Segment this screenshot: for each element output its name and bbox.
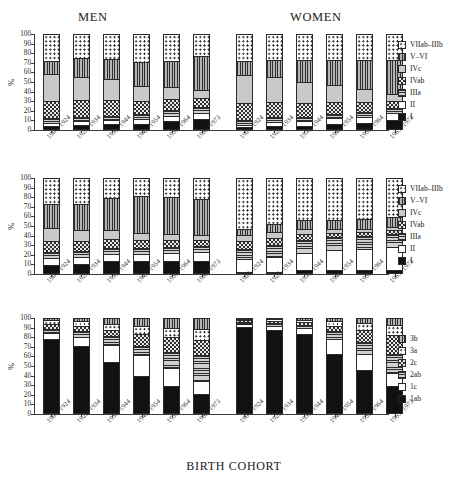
legend-item[interactable]: IIIa — [398, 88, 468, 97]
stacked-bar[interactable] — [266, 318, 283, 414]
stacked-bar[interactable] — [326, 178, 343, 274]
stacked-bar[interactable] — [43, 178, 60, 274]
stacked-bar[interactable] — [73, 318, 90, 414]
legend-item[interactable]: 1ab — [398, 394, 468, 403]
bar-segment — [134, 347, 149, 357]
stacked-bar[interactable] — [163, 34, 180, 130]
legend-item[interactable]: 2ab — [398, 370, 468, 379]
bar-segment — [164, 235, 179, 242]
stacked-bar[interactable] — [103, 34, 120, 130]
stacked-bar[interactable] — [296, 318, 313, 414]
bar-segment — [357, 355, 372, 370]
stacked-bar[interactable] — [193, 178, 210, 274]
bar-segment — [327, 179, 342, 221]
panel-3: % 10090807060504030201001906–19241925–19… — [0, 312, 468, 464]
stacked-bar[interactable] — [356, 178, 373, 274]
legend-label: IVc — [410, 65, 421, 73]
legend-item[interactable]: VIIab–IIIb — [398, 40, 468, 49]
bar-segment — [297, 235, 312, 242]
legend-item[interactable]: 2c — [398, 358, 468, 367]
bar-segment — [297, 104, 312, 117]
y-tick-label: 90 — [24, 184, 31, 191]
stacked-bar[interactable] — [103, 178, 120, 274]
bar-segment — [267, 179, 282, 225]
legend-item[interactable]: 3b — [398, 334, 468, 343]
stacked-bar[interactable] — [193, 318, 210, 414]
legend-label: II — [410, 245, 415, 253]
stacked-bar[interactable] — [236, 34, 253, 130]
bar-segment — [74, 258, 89, 266]
stacked-bar[interactable] — [73, 178, 90, 274]
legend-label: IVc — [410, 209, 421, 217]
bar-segment — [357, 237, 372, 250]
legend-item[interactable]: VIIab–IIIb — [398, 184, 468, 193]
y-tick-label: 90 — [24, 40, 31, 47]
stacked-bar[interactable] — [356, 318, 373, 414]
legend-item[interactable]: 1c — [398, 382, 468, 391]
stacked-bar[interactable] — [193, 34, 210, 130]
bar-segment — [237, 76, 252, 104]
y-tick-mark — [31, 53, 34, 54]
bar-segment — [237, 35, 252, 62]
stacked-bar[interactable] — [296, 178, 313, 274]
y-tick-mark — [31, 318, 34, 319]
legend-swatch-icon — [398, 41, 406, 49]
stacked-bar[interactable] — [356, 34, 373, 130]
y-tick-mark — [31, 130, 34, 131]
bar-segment — [357, 103, 372, 113]
stacked-bar[interactable] — [133, 34, 150, 130]
stacked-bar[interactable] — [266, 178, 283, 274]
stacked-bar[interactable] — [163, 178, 180, 274]
legend-item[interactable]: V–VI — [398, 196, 468, 205]
y-axis-label-2: % — [7, 223, 16, 230]
y-tick-mark — [31, 44, 34, 45]
stacked-bar[interactable] — [163, 318, 180, 414]
bar-segment — [104, 337, 119, 346]
y-tick-mark — [31, 337, 34, 338]
legend-item[interactable]: IVc — [398, 64, 468, 73]
stacked-bar[interactable] — [266, 34, 283, 130]
stacked-bar[interactable] — [103, 318, 120, 414]
stacked-bar[interactable] — [326, 318, 343, 414]
legend-item[interactable]: IVc — [398, 208, 468, 217]
legend-item[interactable]: II — [398, 100, 468, 109]
y-tick-label: 30 — [24, 98, 31, 105]
stacked-bar[interactable] — [296, 34, 313, 130]
y-tick-mark — [31, 188, 34, 189]
bar-segment — [74, 35, 89, 59]
bar-segment — [104, 199, 119, 231]
legend-swatch-icon — [398, 335, 406, 343]
stacked-bar[interactable] — [326, 34, 343, 130]
bar-segment — [164, 35, 179, 62]
stacked-bar[interactable] — [133, 178, 150, 274]
legend-item[interactable]: IVab — [398, 76, 468, 85]
bar-segment — [134, 241, 149, 249]
stacked-bar[interactable] — [73, 34, 90, 130]
panel-1: % 10090807060504030201001906–19241925–19… — [0, 28, 468, 180]
stacked-bar[interactable] — [133, 318, 150, 414]
stacked-bar[interactable] — [236, 318, 253, 414]
legend-item[interactable]: 3a — [398, 346, 468, 355]
bar-segment — [267, 225, 282, 233]
legend-item[interactable]: IVab — [398, 220, 468, 229]
group-title-men: MEN — [78, 10, 108, 25]
bar-segment — [44, 242, 59, 253]
bar-segment — [194, 341, 209, 356]
bar-segment — [164, 100, 179, 111]
legend-label: II — [410, 101, 415, 109]
legend-item[interactable]: I — [398, 256, 468, 265]
bar-segment — [134, 335, 149, 347]
y-tick-mark — [31, 72, 34, 73]
stacked-bar[interactable] — [43, 34, 60, 130]
stacked-bar[interactable] — [236, 178, 253, 274]
legend-panel-1: VIIab–IIIbV–VIIVcIVabIIIaIII — [398, 40, 468, 124]
legend-swatch-icon — [398, 233, 406, 241]
bar-segment — [134, 319, 149, 327]
legend-item[interactable]: I — [398, 112, 468, 121]
bar-segment — [194, 35, 209, 57]
stacked-bar[interactable] — [43, 318, 60, 414]
legend-item[interactable]: IIIa — [398, 232, 468, 241]
legend-item[interactable]: V–VI — [398, 52, 468, 61]
legend-item[interactable]: II — [398, 244, 468, 253]
y-tick-label: 70 — [24, 59, 31, 66]
